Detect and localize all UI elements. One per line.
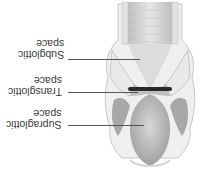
label-supraglottic-space: Supraglottic space xyxy=(6,108,61,130)
subglottic-leader-line xyxy=(68,59,140,60)
label-transglottic-line2: space xyxy=(8,75,62,86)
label-transglottic-space: Transglottic space xyxy=(8,75,62,97)
supraglottic-leader-line xyxy=(68,125,144,126)
larynx-diagram: Subglottic space Transglottic space Supr… xyxy=(0,0,206,182)
label-subglottic-line1: Subglottic xyxy=(18,49,64,60)
label-transglottic-line1: Transglottic xyxy=(8,86,62,97)
label-subglottic-line2: space xyxy=(18,38,64,49)
transglottic-leader-line xyxy=(68,92,138,93)
label-supraglottic-line1: Supraglottic xyxy=(6,119,61,130)
label-supraglottic-line2: space xyxy=(6,108,61,119)
label-subglottic-space: Subglottic space xyxy=(18,38,64,60)
